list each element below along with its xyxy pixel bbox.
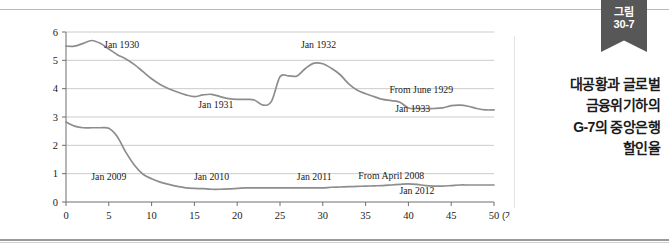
y-tick-5: 5: [53, 55, 58, 66]
axes: [62, 32, 494, 206]
figure-number-badge: 그림 30-7: [601, 0, 647, 52]
annotation-8: Jan 2011: [297, 171, 332, 182]
x-tick-labels: 05101520253035404550: [63, 210, 499, 221]
caption-line-3: G-7의 중앙은행: [524, 117, 660, 138]
figure-bottom-rule-2: [0, 242, 669, 243]
figure-top-rule: [0, 9, 669, 10]
series-line-1: [66, 41, 494, 111]
figure-bottom-rule: [0, 239, 669, 241]
y-tick-3: 3: [53, 112, 58, 123]
x-unit-label: (개월수): [502, 210, 510, 221]
y-tick-1: 1: [53, 168, 58, 179]
x-tick-25: 25: [275, 210, 286, 221]
annotation-1: Jan 1930: [104, 39, 139, 50]
y-tick-labels: 0123456: [53, 27, 59, 208]
x-tick-15: 15: [189, 210, 200, 221]
y-tick-4: 4: [53, 83, 59, 94]
x-tick-50: 50: [489, 210, 500, 221]
y-tick-6: 6: [53, 27, 58, 38]
annotation-7: Jan 2010: [194, 171, 229, 182]
x-tick-45: 45: [446, 210, 457, 221]
badge-label-line2: 30-7: [601, 18, 647, 30]
x-tick-5: 5: [106, 210, 111, 221]
caption-line-1: 대공황과 글로벌: [524, 74, 660, 95]
figure-caption: 대공황과 글로벌 금융위기하의 G-7의 중앙은행 할인율: [524, 74, 660, 159]
annotation-4: From June 1929: [389, 84, 453, 95]
x-tick-30: 30: [318, 210, 329, 221]
caption-divider: [514, 36, 515, 208]
y-tick-2: 2: [53, 140, 58, 151]
chart-area: 0123456 05101520253035404550 Jan 1930Jan…: [0, 14, 510, 236]
caption-line-2: 금융위기하의: [524, 95, 660, 116]
badge-label-line1: 그림: [601, 6, 647, 18]
annotation-5: Jan 1933: [395, 103, 430, 114]
annotation-2: Jan 1931: [198, 99, 233, 110]
x-tick-10: 10: [146, 210, 157, 221]
x-tick-35: 35: [360, 210, 371, 221]
annotation-6: Jan 2009: [91, 171, 126, 182]
annotation-10: Jan 2012: [399, 185, 434, 196]
y-tick-0: 0: [53, 197, 58, 208]
caption-line-4: 할인율: [524, 138, 660, 159]
series-lines: [66, 41, 494, 190]
x-tick-0: 0: [63, 210, 68, 221]
annotation-9: From April 2008: [358, 170, 424, 181]
x-tick-20: 20: [232, 210, 243, 221]
figure-container: 그림 30-7 대공황과 글로벌 금융위기하의 G-7의 중앙은행 할인율 01…: [0, 0, 669, 250]
x-axis-unit-label: (개월수): [502, 210, 510, 221]
x-tick-40: 40: [403, 210, 414, 221]
line-chart: 0123456 05101520253035404550 Jan 1930Jan…: [0, 14, 510, 236]
annotation-3: Jan 1932: [301, 39, 336, 50]
series-line-2: [66, 122, 494, 189]
